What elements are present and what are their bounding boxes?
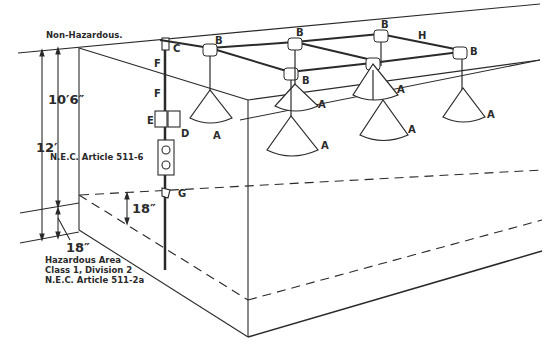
device-d-box: [168, 111, 180, 127]
device-switch: [158, 140, 174, 175]
junction-box: [284, 68, 298, 80]
junction-box: [453, 47, 467, 59]
label-f: F: [154, 58, 161, 69]
hazard-line-front: [248, 220, 542, 300]
label-b: B: [296, 27, 304, 38]
ceiling-line: [18, 4, 540, 53]
junction-box: [288, 38, 302, 50]
hazard-line-back: [80, 170, 542, 195]
device-e-box: [155, 111, 167, 127]
label-b: B: [470, 46, 478, 57]
label-b: B: [215, 35, 223, 46]
junction-box: [374, 30, 388, 42]
label-e: E: [147, 115, 154, 126]
light-fixture: [443, 88, 485, 122]
article-511-6-label: N.E.C. Article 511-6: [50, 152, 143, 162]
label-h: H: [418, 30, 426, 41]
label-a: A: [213, 130, 221, 141]
light-fixture: [353, 64, 398, 100]
label-b: B: [381, 19, 389, 30]
dim-18in-front-label: 18″: [132, 201, 156, 216]
label-a: A: [408, 124, 416, 135]
light-fixture: [360, 100, 408, 141]
dim-18in-side-label: 18″: [66, 240, 90, 255]
label-a: A: [321, 140, 329, 151]
floor-front-edge: [248, 251, 542, 337]
device-g: [162, 188, 170, 198]
dim-10ft6in-label: 10′6″: [48, 92, 85, 107]
non-hazardous-label: Non-Hazardous.: [46, 30, 123, 40]
label-c: C: [173, 43, 180, 54]
label-a: A: [487, 109, 495, 120]
hazard-ext-line: [20, 203, 79, 213]
label-b: B: [302, 75, 310, 86]
label-g: G: [178, 188, 186, 199]
label-a: A: [397, 84, 405, 95]
hazardous-article-label: N.E.C. Article 511-2a: [45, 275, 144, 285]
light-fixture: [275, 84, 318, 111]
hazardous-class-label: Class 1, Division 2: [45, 265, 132, 275]
label-f: F: [154, 88, 161, 99]
light-fixture: [190, 90, 232, 123]
label-a: A: [318, 99, 326, 110]
box-top-left-edge: [79, 48, 248, 100]
hazardous-area-label: Hazardous Area: [45, 255, 121, 265]
light-fixture: [267, 116, 318, 156]
hazardous-area-lighting-diagram: Non-Hazardous. 10′6″ 12′ N.E.C. Article …: [0, 0, 560, 354]
label-d: D: [181, 128, 189, 139]
